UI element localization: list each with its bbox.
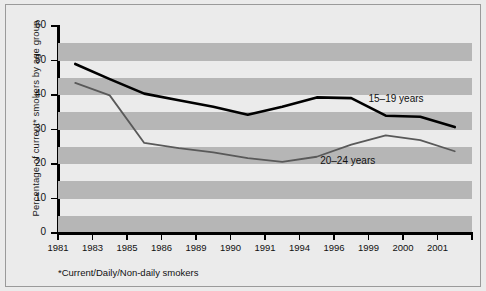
- series-annotation-20-24: 20–24 years: [320, 155, 375, 166]
- x-axis-tick: [126, 234, 128, 240]
- chart-frame: Percentage of current* smokers by age gr…: [5, 4, 481, 287]
- x-axis-tick: [92, 234, 94, 240]
- x-axis-tick: [368, 234, 370, 240]
- y-axis-tick-label: 20: [6, 157, 46, 168]
- y-axis-tick-label: 40: [6, 88, 46, 99]
- series-lines: [58, 26, 472, 233]
- y-axis-tick-label: 50: [6, 54, 46, 65]
- y-axis-tick-label: 30: [6, 123, 46, 134]
- y-axis-tick-label: 0: [6, 226, 46, 237]
- x-axis-tick: [161, 234, 163, 240]
- x-axis-tick: [57, 234, 59, 240]
- x-axis-tick-label: 2001: [418, 242, 458, 253]
- series-annotation-15-19: 15–19 years: [369, 93, 424, 104]
- x-axis-tick: [471, 234, 473, 240]
- y-axis-tick-label: 10: [6, 192, 46, 203]
- x-axis-tick: [402, 234, 404, 240]
- x-axis-tick: [299, 234, 301, 240]
- y-axis-tick-label: 60: [6, 19, 46, 30]
- x-axis-tick: [333, 234, 335, 240]
- plot-area: [58, 26, 472, 233]
- x-axis-tick: [230, 234, 232, 240]
- x-axis-tick: [437, 234, 439, 240]
- x-axis-tick: [195, 234, 197, 240]
- x-axis-tick: [264, 234, 266, 240]
- chart-footnote: *Current/Daily/Non-daily smokers: [58, 267, 198, 278]
- chart-figure: Percentage of current* smokers by age gr…: [0, 0, 486, 291]
